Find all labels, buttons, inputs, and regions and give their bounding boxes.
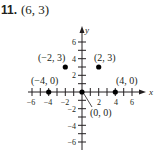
point-label: (−4, 0) [31, 75, 58, 87]
y-tick-label: −2 [67, 105, 76, 114]
point-label: (0, 0) [90, 107, 112, 119]
point-4-0 [113, 89, 118, 94]
y-tick-label: −4 [67, 122, 76, 131]
y-tick-label: −6 [67, 138, 76, 147]
x-tick-label: 4 [114, 98, 118, 107]
y-tick-label: 4 [72, 55, 76, 64]
point-0-0 [79, 89, 84, 94]
point-neg2-3 [63, 64, 68, 69]
y-axis-label: y [84, 25, 89, 35]
y-tick-label: 6 [72, 38, 76, 47]
x-tick-label: −6 [27, 98, 36, 107]
x-tick-label: −4 [44, 98, 53, 107]
x-axis-arrow-icon [139, 90, 146, 95]
x-tick-label: 6 [130, 98, 134, 107]
point-label: (−2, 3) [38, 52, 65, 64]
point-label: (4, 0) [116, 75, 138, 87]
x-tick-label: 2 [97, 98, 101, 107]
x-axis-label: x [148, 87, 153, 97]
point-label: (2, 3) [94, 52, 116, 64]
y-tick-label: 2 [72, 71, 76, 80]
point-neg4-0 [46, 89, 51, 94]
point-2-3 [96, 64, 101, 69]
coordinate-plane: −6 −4 −2 2 4 6 6 4 2 −2 −4 −6 x y (−2, 3… [0, 0, 162, 159]
y-axis-arrow-icon [80, 26, 85, 33]
